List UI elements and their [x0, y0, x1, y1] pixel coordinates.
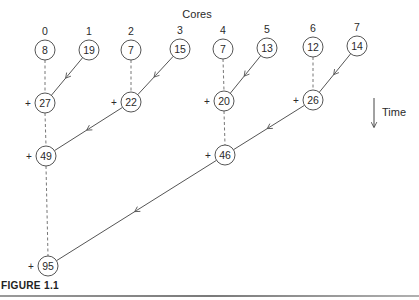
send-arrow-line: [51, 58, 82, 96]
core-label: 6: [310, 22, 316, 34]
core-value: 12: [307, 41, 319, 53]
send-arrow-line: [230, 56, 260, 93]
core-value: 14: [351, 40, 363, 52]
sum-value: 26: [307, 94, 319, 106]
core-node-5: 513: [257, 23, 277, 58]
send-arrow-line: [56, 160, 216, 260]
sum-node-95: +95: [28, 256, 58, 276]
edges-layer: [45, 54, 351, 261]
sum-value: 22: [125, 96, 137, 108]
send-arrow-line: [319, 54, 350, 92]
core-value: 15: [174, 43, 186, 55]
sum-node-22: +22: [111, 92, 141, 112]
core-label: 4: [220, 24, 226, 36]
time-indicator: Time: [374, 98, 406, 127]
core-node-2: 27: [121, 25, 141, 60]
core-label: 3: [177, 24, 183, 36]
core-label: 0: [42, 25, 48, 37]
core-value: 7: [220, 43, 226, 55]
send-arrow-line: [233, 105, 304, 149]
nodes-layer: 081192731547513612714+27+22+20+26+49+46+…: [25, 21, 367, 276]
sum-value: 95: [42, 260, 54, 272]
send-arrow-line: [138, 56, 173, 94]
sum-value: 49: [40, 150, 52, 162]
core-node-4: 47: [213, 24, 233, 59]
core-node-7: 714: [347, 21, 367, 56]
send-arrow-line: [54, 107, 122, 150]
plus-icon: +: [25, 98, 31, 109]
core-label: 7: [354, 21, 360, 33]
sum-node-26: +26: [293, 90, 323, 110]
tree-sum-diagram: 081192731547513612714+27+22+20+26+49+46+…: [0, 0, 419, 300]
dashed-carry-line: [45, 113, 46, 146]
core-node-1: 119: [79, 25, 99, 60]
core-value: 13: [261, 42, 273, 54]
core-label: 1: [86, 25, 92, 37]
core-node-3: 315: [170, 24, 190, 59]
core-node-0: 08: [35, 25, 55, 60]
plus-icon: +: [111, 97, 117, 108]
plus-icon: +: [28, 261, 34, 272]
plus-icon: +: [205, 150, 211, 161]
core-value: 8: [42, 44, 48, 56]
sum-node-27: +27: [25, 93, 55, 113]
sum-value: 20: [218, 95, 230, 107]
sum-node-20: +20: [204, 91, 234, 111]
sum-node-49: +49: [26, 146, 56, 166]
plus-icon: +: [26, 151, 32, 162]
figure-caption: FIGURE 1.1: [1, 279, 59, 291]
plus-icon: +: [204, 96, 210, 107]
sum-node-46: +46: [205, 145, 235, 165]
core-label: 5: [264, 23, 270, 35]
caption-divider: [0, 295, 419, 297]
sum-value: 46: [219, 149, 231, 161]
core-node-6: 612: [303, 22, 323, 57]
core-value: 19: [83, 44, 95, 56]
core-label: 2: [128, 25, 134, 37]
core-value: 7: [128, 44, 134, 56]
sum-value: 27: [39, 97, 51, 109]
time-label: Time: [382, 106, 406, 118]
plus-icon: +: [293, 95, 299, 106]
dashed-carry-line: [223, 59, 224, 91]
dashed-carry-line: [224, 111, 225, 145]
cores-title: Cores: [182, 8, 212, 20]
dashed-carry-line: [46, 166, 48, 256]
